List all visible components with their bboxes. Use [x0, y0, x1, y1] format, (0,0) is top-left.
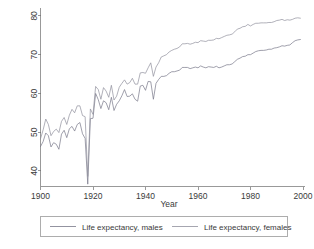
chart-legend: Life expectancy, males Life expectancy, … — [41, 217, 292, 237]
y-axis-tick-labels: 4050607080 — [30, 11, 40, 176]
series-line-females — [41, 18, 301, 177]
x-tick-label: 1980 — [241, 191, 260, 201]
line-chart: 4050607080 190019201940196019802000 Year… — [0, 0, 314, 249]
legend-label-males: Life expectancy, males — [82, 223, 163, 232]
x-tick-label: 2000 — [294, 191, 313, 201]
y-tick-label: 60 — [30, 88, 40, 98]
series-line-males — [41, 40, 301, 185]
chart-figure: 4050607080 190019201940196019802000 Year… — [0, 0, 314, 249]
x-tick-label: 1900 — [31, 191, 50, 201]
y-tick-label: 50 — [30, 127, 40, 137]
legend-label-females: Life expectancy, females — [204, 223, 291, 232]
x-tick-label: 1940 — [136, 191, 155, 201]
x-tick-label: 1920 — [84, 191, 103, 201]
y-tick-label: 80 — [30, 11, 40, 21]
y-tick-label: 40 — [30, 166, 40, 176]
x-axis-ticks — [41, 187, 304, 190]
x-tick-label: 1960 — [189, 191, 208, 201]
x-axis-title: Year — [160, 199, 177, 209]
y-tick-label: 70 — [30, 50, 40, 60]
